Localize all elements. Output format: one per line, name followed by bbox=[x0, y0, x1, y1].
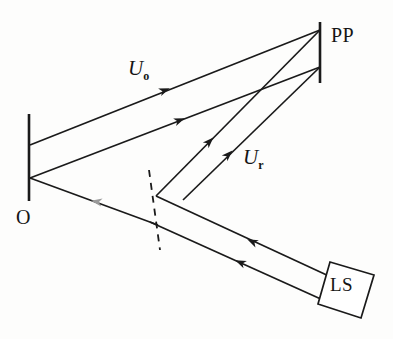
optics-diagram-canvas: PP O LS Uo Ur bbox=[0, 0, 393, 339]
label-object: O bbox=[16, 206, 31, 229]
arrowhead-reference-wave-outer bbox=[222, 148, 235, 161]
label-object-wave-subscript: o bbox=[143, 69, 149, 83]
ray-reference-wave-inner bbox=[156, 30, 320, 196]
label-photographic-plate: PP bbox=[331, 24, 354, 47]
arrowhead-object-wave-lower bbox=[173, 115, 186, 126]
beam-splitter-dashed-line bbox=[149, 170, 160, 250]
ray-object-wave-lower bbox=[30, 67, 320, 178]
arrowhead-source-beam-upper bbox=[245, 236, 258, 248]
label-light-source: LS bbox=[330, 274, 353, 296]
arrowhead-source-beam-lower bbox=[234, 257, 247, 269]
label-object-wave: Uo bbox=[128, 56, 149, 84]
ray-object-wave-upper bbox=[30, 30, 320, 145]
label-object-wave-symbol: U bbox=[128, 56, 143, 80]
label-reference-wave-symbol: U bbox=[243, 145, 258, 169]
label-reference-wave-subscript: r bbox=[258, 158, 263, 172]
label-reference-wave: Ur bbox=[243, 145, 264, 173]
ray-reference-wave-outer bbox=[183, 67, 320, 200]
